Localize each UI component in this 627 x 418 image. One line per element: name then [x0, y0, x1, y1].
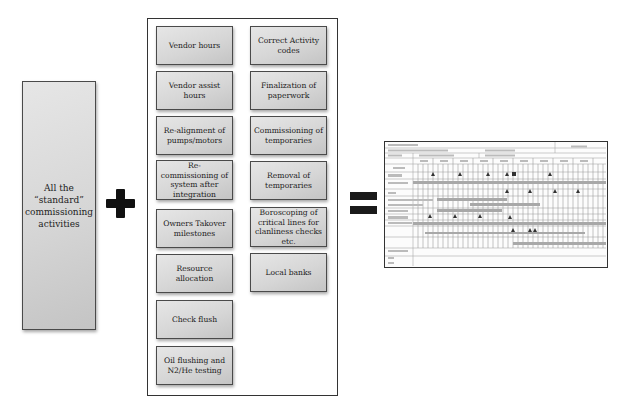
activity-label: Commissioning of temporaries	[254, 126, 323, 145]
activity-label: Oil flushing and N2/He testing	[160, 356, 229, 375]
activity-label: Re-commissioning of system after integra…	[160, 161, 229, 199]
activity-correct-codes: Correct Activity codes	[250, 26, 327, 65]
activity-label: Correct Activity codes	[254, 36, 323, 55]
additional-activities-container: Vendor hours Vendor assist hours Re-alig…	[147, 18, 338, 396]
activity-check-flush: Check flush	[156, 300, 233, 339]
activity-label: Check flush	[172, 315, 217, 325]
standard-activities-box: All the “standard” commissioning activit…	[22, 81, 96, 330]
schedule-form-thumbnail	[384, 141, 608, 268]
activity-boroscoping: Boroscoping of critical lines for clanli…	[250, 207, 327, 247]
activity-local-banks: Local banks	[250, 253, 327, 292]
activity-label: Vendor hours	[169, 41, 221, 51]
schedule-grid-graphic	[385, 142, 606, 266]
activity-label: Finalization of paperwork	[254, 81, 323, 100]
activity-label: Owners Takover milestones	[160, 219, 229, 238]
activity-label: Re-alignment of pumps/motors	[160, 126, 229, 145]
standard-activities-label: All the “standard” commissioning activit…	[25, 182, 93, 230]
activity-owners-takeover: Owners Takover milestones	[156, 209, 233, 248]
activity-vendor-hours: Vendor hours	[156, 26, 233, 65]
activity-label: Removal of temporaries	[254, 171, 323, 190]
activity-re-alignment: Re-alignment of pumps/motors	[156, 116, 233, 155]
equals-icon	[350, 192, 377, 214]
activity-vendor-assist-hours: Vendor assist hours	[156, 71, 233, 110]
activity-label: Vendor assist hours	[160, 81, 229, 100]
activity-finalization-paperwork: Finalization of paperwork	[250, 71, 327, 110]
activity-resource-allocation: Resource allocation	[156, 254, 233, 293]
activity-oil-flushing: Oil flushing and N2/He testing	[156, 346, 233, 385]
activity-label: Boroscoping of critical lines for clanli…	[254, 208, 323, 246]
activity-removal-temporaries: Removal of temporaries	[250, 161, 327, 200]
activity-label: Resource allocation	[160, 264, 229, 283]
activity-re-commissioning: Re-commissioning of system after integra…	[156, 160, 233, 200]
activity-commissioning-temporaries: Commissioning of temporaries	[250, 116, 327, 155]
plus-icon	[106, 189, 135, 218]
activity-label: Local banks	[265, 268, 311, 278]
